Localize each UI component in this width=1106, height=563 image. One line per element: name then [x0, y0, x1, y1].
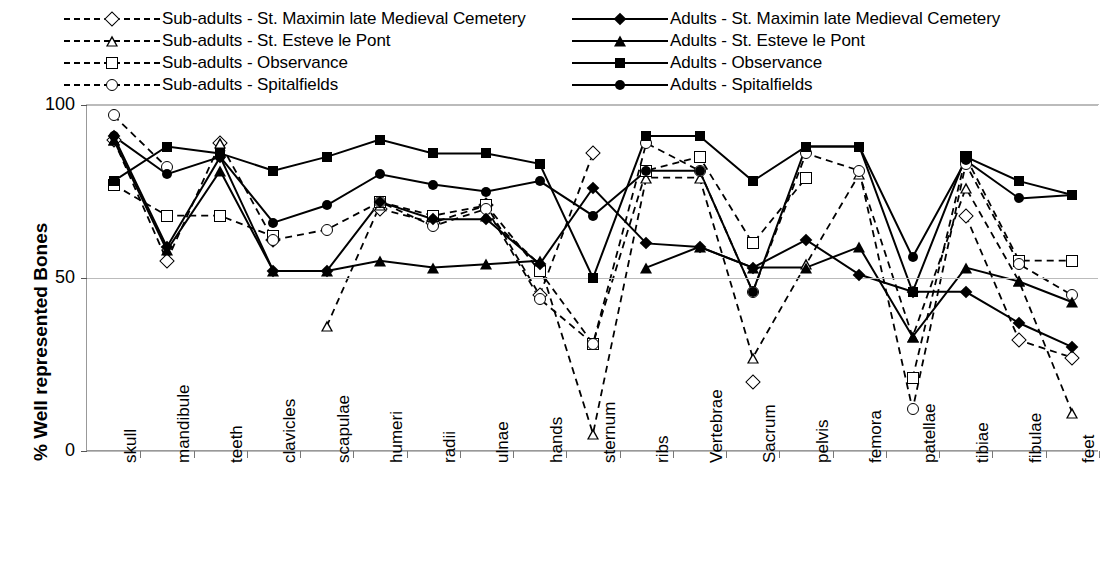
- data-point: [802, 235, 811, 244]
- triangle-filled-marker-icon: [960, 262, 972, 273]
- data-point: [321, 321, 333, 332]
- x-tick-mark: [1099, 451, 1100, 458]
- triangle-open-marker-icon: [106, 36, 118, 47]
- square-filled-marker-icon: [615, 58, 625, 68]
- legend-key: [570, 10, 670, 28]
- data-point: [1014, 193, 1024, 203]
- legend-item[interactable]: Sub-adults - St. Esteve le Pont: [62, 30, 526, 52]
- x-tick-mark: [886, 451, 887, 458]
- circle-filled-marker-icon: [854, 142, 864, 152]
- triangle-open-marker-icon: [747, 352, 759, 363]
- circle-filled-marker-icon: [375, 169, 385, 179]
- data-point: [429, 215, 438, 224]
- triangle-filled-marker-icon: [480, 259, 492, 270]
- triangle-filled-marker-icon: [374, 255, 386, 266]
- square-open-marker-icon: [747, 237, 759, 249]
- circle-filled-marker-icon: [641, 166, 651, 176]
- data-point: [588, 211, 598, 221]
- x-tick-mark: [673, 451, 674, 458]
- diamond-filled-marker-icon: [614, 13, 627, 26]
- y-tick-mark: [81, 105, 87, 106]
- square-filled-marker-icon: [908, 287, 918, 297]
- diamond-filled-marker-icon: [800, 234, 813, 247]
- data-point: [215, 152, 225, 162]
- x-tick-label: clavicles: [280, 399, 300, 463]
- data-point: [1066, 297, 1078, 308]
- legend-item-label: Sub-adults - St. Esteve le Pont: [162, 31, 390, 51]
- legend-key: [570, 32, 670, 50]
- square-open-marker-icon: [907, 372, 919, 384]
- data-point: [853, 165, 865, 177]
- square-filled-marker-icon: [481, 148, 491, 158]
- circle-open-marker-icon: [907, 403, 919, 415]
- data-point: [1068, 343, 1077, 352]
- data-point: [214, 165, 226, 176]
- circle-open-marker-icon: [267, 234, 279, 246]
- x-tick-label: ribs: [653, 436, 673, 463]
- data-point: [321, 224, 333, 236]
- square-filled-marker-icon: [748, 176, 758, 186]
- x-tick-label: Vertebrae: [707, 389, 727, 463]
- square-filled-marker-icon: [109, 176, 119, 186]
- triangle-filled-marker-icon: [534, 255, 546, 266]
- triangle-open-marker-icon: [960, 183, 972, 194]
- circle-open-marker-icon: [853, 165, 865, 177]
- legend-item[interactable]: Sub-adults - Spitalfields: [62, 74, 526, 96]
- legend-item[interactable]: Sub-adults - St. Maximin late Medieval C…: [62, 8, 526, 30]
- data-point: [747, 237, 759, 249]
- plot-area: 050100skullmandibuleteethclaviclesscapul…: [86, 105, 1098, 451]
- legend-item[interactable]: Adults - Observance: [570, 52, 1000, 74]
- square-open-marker-icon: [106, 57, 118, 69]
- legend-item[interactable]: Adults - St. Maximin late Medieval Cemet…: [570, 8, 1000, 30]
- triangle-filled-marker-icon: [853, 241, 865, 252]
- data-point: [695, 166, 705, 176]
- data-point: [162, 142, 172, 152]
- x-tick-label: teeth: [227, 425, 247, 463]
- square-filled-marker-icon: [322, 152, 332, 162]
- legend-marker: [616, 15, 625, 24]
- data-point: [535, 159, 545, 169]
- square-filled-marker-icon: [695, 131, 705, 141]
- data-point: [481, 187, 491, 197]
- x-tick-label: fibulae: [1026, 413, 1046, 463]
- data-point: [375, 169, 385, 179]
- square-filled-marker-icon: [535, 159, 545, 169]
- diamond-filled-marker-icon: [1066, 341, 1079, 354]
- square-filled-marker-icon: [1014, 176, 1024, 186]
- legend-key: [570, 54, 670, 72]
- legend-item[interactable]: Adults - St. Esteve le Pont: [570, 30, 1000, 52]
- data-point: [748, 287, 758, 297]
- legend-marker: [614, 36, 626, 47]
- diamond-filled-marker-icon: [374, 196, 387, 209]
- data-point: [268, 218, 278, 228]
- square-open-marker-icon: [800, 172, 812, 184]
- legend-column-adults: Adults - St. Maximin late Medieval Cemet…: [570, 8, 1000, 96]
- legend-item-label: Adults - Spitalfields: [670, 75, 812, 95]
- triangle-filled-marker-icon: [907, 331, 919, 342]
- legend-key: [570, 76, 670, 94]
- legend-item[interactable]: Adults - Spitalfields: [570, 74, 1000, 96]
- y-tick-label: 50: [19, 267, 75, 288]
- data-point: [267, 234, 279, 246]
- plot-wrapper: % Well represented Bones 050100skullmand…: [0, 96, 1106, 563]
- data-point: [1014, 335, 1025, 346]
- triangle-filled-marker-icon: [614, 36, 626, 47]
- data-point: [322, 152, 332, 162]
- circle-filled-marker-icon: [588, 211, 598, 221]
- diamond-filled-marker-icon: [1013, 317, 1026, 330]
- data-point: [961, 155, 971, 165]
- circle-filled-marker-icon: [268, 218, 278, 228]
- data-point: [321, 266, 333, 277]
- circle-filled-marker-icon: [695, 166, 705, 176]
- data-point: [800, 172, 812, 184]
- data-point: [374, 255, 386, 266]
- legend-marker: [106, 36, 118, 47]
- square-open-marker-icon: [214, 210, 226, 222]
- legend-column-sub-adults: Sub-adults - St. Maximin late Medieval C…: [62, 8, 526, 96]
- data-point: [214, 210, 226, 222]
- data-point: [1067, 190, 1077, 200]
- x-tick-label: hands: [547, 417, 567, 463]
- square-open-marker-icon: [1066, 255, 1078, 267]
- triangle-filled-marker-icon: [321, 266, 333, 277]
- legend-item[interactable]: Sub-adults - Observance: [62, 52, 526, 74]
